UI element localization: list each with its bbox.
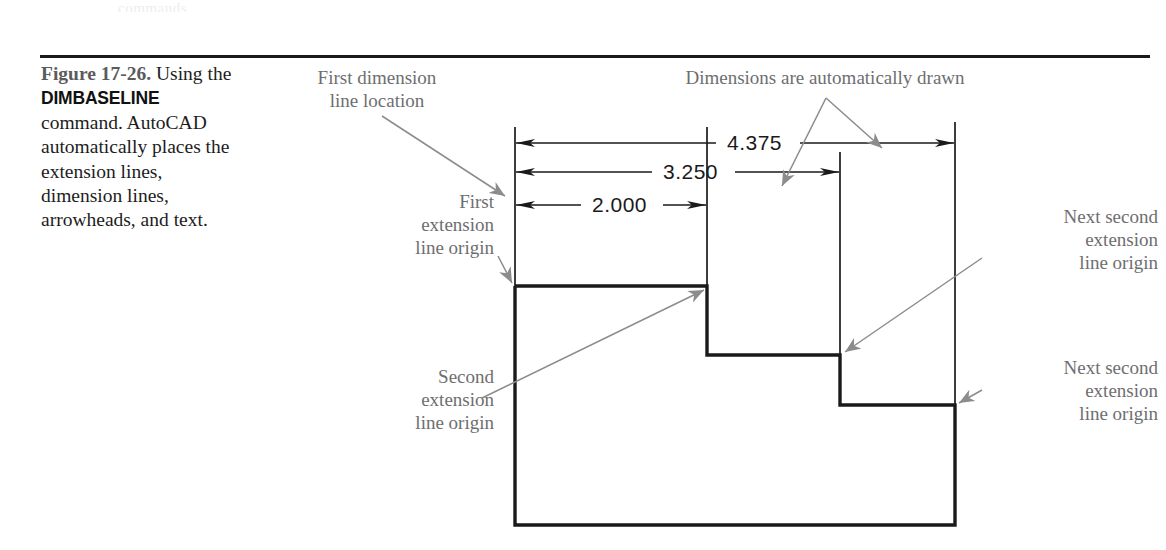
leader-next-second-extension-origin-upper	[845, 258, 982, 352]
leader-first-extension-line-origin	[498, 256, 512, 283]
dimension-value-3250: 3.250	[663, 160, 718, 183]
leader-first-dimension-line-location	[382, 116, 505, 196]
dimension-3250: 3.250	[516, 160, 839, 183]
dimension-value-4375: 4.375	[727, 131, 782, 154]
cad-drawing-canvas: 4.375 3.250 2.000	[0, 0, 1166, 550]
leader-auto-drawn-to-4375	[826, 98, 882, 148]
dimension-4375: 4.375	[516, 131, 954, 154]
dimension-value-2000: 2.000	[592, 193, 647, 216]
dimension-2000: 2.000	[516, 193, 706, 216]
extension-lines	[515, 122, 955, 407]
figure-page: commands Figure 17-26. Using the DIMBASE…	[0, 0, 1166, 550]
leader-next-second-extension-origin-lower	[959, 390, 982, 403]
